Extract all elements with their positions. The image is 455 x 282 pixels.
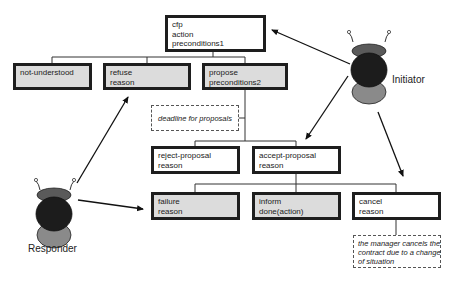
message-not-understood: not-understood bbox=[13, 63, 92, 90]
message-label: cancel bbox=[359, 197, 434, 207]
message-inform: inform done(action) bbox=[252, 192, 341, 220]
message-param: action bbox=[172, 30, 259, 40]
message-propose: propose preconditions2 bbox=[202, 63, 288, 90]
message-label: inform bbox=[259, 197, 334, 207]
message-reject-proposal: reject-proposal reason bbox=[151, 146, 240, 174]
responder-label: Responder bbox=[28, 243, 77, 254]
message-refuse: refuse reason bbox=[103, 63, 191, 90]
message-param: reason bbox=[158, 207, 233, 217]
initiator-agent-icon bbox=[347, 30, 390, 104]
note-text: the manager cancels the bbox=[358, 239, 436, 248]
message-label: reject-proposal bbox=[158, 151, 233, 161]
message-param: done(action) bbox=[259, 207, 334, 217]
message-cancel: cancel reason bbox=[352, 192, 441, 220]
message-failure: failure reason bbox=[151, 192, 240, 220]
note-manager-cancel: the manager cancels the contract due to … bbox=[353, 235, 441, 268]
message-label: accept-proposal bbox=[259, 151, 334, 161]
message-param: reason bbox=[158, 161, 233, 171]
note-deadline: deadline for proposals bbox=[151, 105, 239, 131]
message-label: propose bbox=[209, 68, 281, 78]
message-param: reason bbox=[359, 207, 434, 217]
note-text: deadline for proposals bbox=[158, 114, 232, 123]
message-label: refuse bbox=[110, 68, 184, 78]
message-param: preconditions1 bbox=[172, 39, 259, 49]
message-param: preconditions2 bbox=[209, 78, 281, 88]
message-label: failure bbox=[158, 197, 233, 207]
message-param: reason bbox=[110, 78, 184, 88]
note-text: contract due to a change bbox=[358, 248, 436, 257]
message-label: cfp bbox=[172, 20, 259, 30]
responder-agent-icon bbox=[34, 178, 75, 248]
message-param: reason bbox=[259, 161, 334, 171]
message-cfp: cfp action preconditions1 bbox=[165, 15, 266, 52]
note-text: of situation bbox=[358, 257, 436, 266]
message-accept-proposal: accept-proposal reason bbox=[252, 146, 341, 174]
initiator-label: Initiator bbox=[392, 74, 425, 85]
message-label: not-understood bbox=[20, 68, 85, 78]
